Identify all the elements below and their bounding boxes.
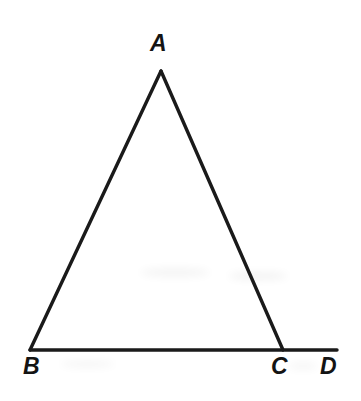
vertex-label-b: B <box>23 355 40 378</box>
segment-AC <box>161 71 283 350</box>
triangle-drawing <box>0 0 361 401</box>
vertex-label-a: A <box>150 32 167 55</box>
segment-AB <box>30 71 161 350</box>
vertex-label-d: D <box>320 355 337 378</box>
vertex-label-c: C <box>271 355 288 378</box>
geometry-figure: A B C D <box>0 0 361 401</box>
